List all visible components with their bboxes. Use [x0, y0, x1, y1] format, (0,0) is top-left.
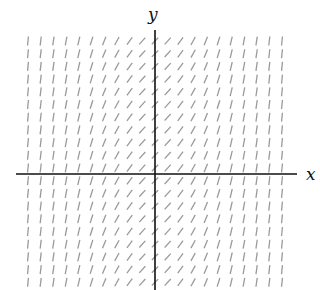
slope-segment	[165, 127, 171, 134]
slope-segment	[53, 138, 54, 147]
slope-segment	[139, 190, 145, 197]
slope-segment	[102, 189, 105, 197]
slope-segment	[204, 126, 207, 134]
slope-segment	[65, 62, 67, 71]
slope-segment	[115, 113, 119, 121]
slope-segment	[217, 215, 220, 224]
slope-segment	[127, 75, 132, 82]
slope-segment	[28, 151, 29, 160]
slope-segment	[230, 189, 232, 198]
slope-segment	[269, 75, 270, 84]
slope-segment	[191, 139, 195, 147]
slope-segment	[243, 138, 245, 147]
slope-segment	[78, 278, 80, 287]
x-axis-label: x	[306, 164, 316, 184]
slope-segment	[230, 113, 232, 122]
slope-segment	[204, 164, 207, 172]
slope-segment	[40, 189, 41, 198]
slope-segment	[115, 278, 119, 286]
slope-segment	[191, 177, 195, 185]
slope-segment	[139, 139, 145, 146]
slope-segment	[256, 138, 257, 147]
slope-segment	[269, 202, 270, 211]
slope-segment	[256, 240, 257, 249]
slope-segment	[178, 228, 183, 235]
slope-segment	[217, 100, 220, 109]
slope-segment	[178, 266, 183, 273]
slope-segment	[243, 252, 245, 261]
slope-segment	[53, 87, 54, 96]
slope-segment	[269, 100, 270, 109]
slope-segment	[191, 37, 195, 45]
slope-segment	[256, 265, 257, 274]
slope-segment	[65, 49, 67, 58]
slope-segment	[243, 164, 245, 173]
slope-segment	[230, 202, 232, 211]
slope-segment	[230, 37, 232, 46]
slope-segment	[40, 214, 41, 223]
slope-segment	[90, 151, 93, 160]
slope-segment	[165, 241, 171, 248]
slope-segment	[165, 203, 171, 210]
slope-segment	[178, 50, 183, 57]
slope-segment	[115, 189, 119, 197]
slope-segment	[65, 75, 67, 84]
slope-segment	[217, 75, 220, 84]
slope-segment	[127, 88, 132, 95]
slope-segment	[139, 152, 145, 159]
slope-segment	[53, 75, 54, 84]
slope-segment	[243, 176, 245, 185]
slope-segment	[53, 278, 54, 287]
slope-segment	[178, 101, 183, 108]
slope-segment	[230, 214, 232, 223]
slope-segment	[178, 139, 183, 146]
slope-segment	[40, 100, 41, 109]
slope-segment	[65, 176, 67, 185]
slope-segment	[139, 76, 145, 83]
slope-segment	[139, 215, 145, 222]
slope-segment	[115, 228, 119, 236]
slope-segment	[282, 49, 283, 58]
slope-segment	[256, 252, 257, 261]
slope-segment	[269, 252, 270, 261]
slope-segment	[204, 37, 207, 45]
slope-segment	[191, 101, 195, 109]
slope-segment	[115, 266, 119, 274]
slope-segment	[204, 227, 207, 235]
slope-segment	[243, 75, 245, 84]
slope-segment	[178, 177, 183, 184]
slope-segment	[90, 126, 93, 135]
slope-segment	[282, 252, 283, 261]
slope-segment	[115, 62, 119, 70]
slope-segment	[139, 38, 145, 45]
slope-segment	[127, 50, 132, 57]
slope-segment	[243, 189, 245, 198]
slope-segment	[204, 100, 207, 108]
slope-segment	[102, 100, 105, 108]
slope-segment	[139, 279, 145, 286]
slope-segment	[139, 228, 145, 235]
slope-segment	[217, 164, 220, 173]
slope-segment	[204, 177, 207, 185]
slope-segment	[28, 138, 29, 147]
slope-segment	[191, 278, 195, 286]
slope-segment	[28, 278, 29, 287]
slope-segment	[40, 62, 41, 71]
slope-segment	[230, 126, 232, 135]
slope-segment	[102, 265, 105, 273]
slope-segment	[127, 190, 132, 197]
slope-segment	[269, 164, 270, 173]
slope-segment	[204, 138, 207, 146]
slope-segment	[65, 151, 67, 160]
slope-segment	[40, 164, 41, 173]
slope-segment	[78, 265, 80, 274]
slope-segment	[282, 62, 283, 71]
slope-segment	[65, 113, 67, 122]
slope-segment	[78, 176, 80, 185]
slope-segment	[178, 88, 183, 95]
slope-segment	[139, 266, 145, 273]
slope-segment	[53, 100, 54, 109]
slope-segment	[127, 279, 132, 286]
slope-segment	[256, 75, 257, 84]
slope-segment	[230, 278, 232, 287]
